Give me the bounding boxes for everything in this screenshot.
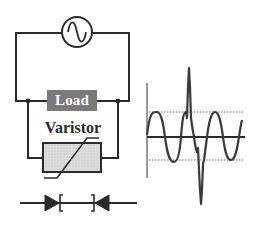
load-label: Load: [55, 92, 89, 109]
varistor-protection-diagram: Load Varistor: [0, 0, 254, 226]
right-loop-wire: [92, 33, 129, 101]
varistor-label: Varistor: [40, 118, 106, 138]
load-box: Load: [47, 90, 97, 111]
varistor-icon: [43, 138, 101, 178]
diagram-svg: [0, 0, 254, 226]
bidirectional-zener-diode-icon: [20, 195, 137, 211]
junction-dot-right: [116, 99, 121, 104]
waveform-plot: [147, 68, 245, 204]
sine-waveform: [147, 68, 242, 204]
junction-dot-left: [26, 99, 31, 104]
ac-source-icon: [62, 17, 92, 47]
